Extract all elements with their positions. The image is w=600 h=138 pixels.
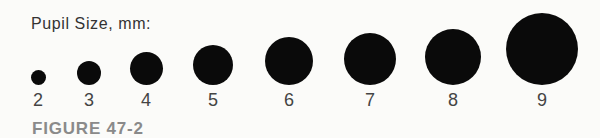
pupil-size-label: 2 bbox=[23, 90, 53, 110]
pupil-size-label: 9 bbox=[527, 90, 557, 110]
pupil-circle-8mm bbox=[425, 29, 481, 85]
pupil-circle-2mm bbox=[31, 70, 46, 85]
pupil-size-label: 5 bbox=[198, 90, 228, 110]
pupil-circle-7mm bbox=[344, 33, 396, 85]
diagram-title: Pupil Size, mm: bbox=[31, 15, 151, 33]
pupil-size-label: 4 bbox=[131, 90, 161, 110]
figure-caption: FIGURE 47-2 bbox=[32, 120, 144, 138]
pupil-circle-4mm bbox=[130, 52, 163, 85]
pupil-circle-5mm bbox=[193, 45, 233, 85]
pupil-size-label: 7 bbox=[355, 90, 385, 110]
pupil-circle-3mm bbox=[77, 61, 101, 85]
pupil-size-label: 3 bbox=[74, 90, 104, 110]
pupil-size-label: 8 bbox=[438, 90, 468, 110]
pupil-circle-9mm bbox=[506, 13, 578, 85]
pupil-circle-6mm bbox=[265, 37, 313, 85]
pupil-size-label: 6 bbox=[274, 90, 304, 110]
